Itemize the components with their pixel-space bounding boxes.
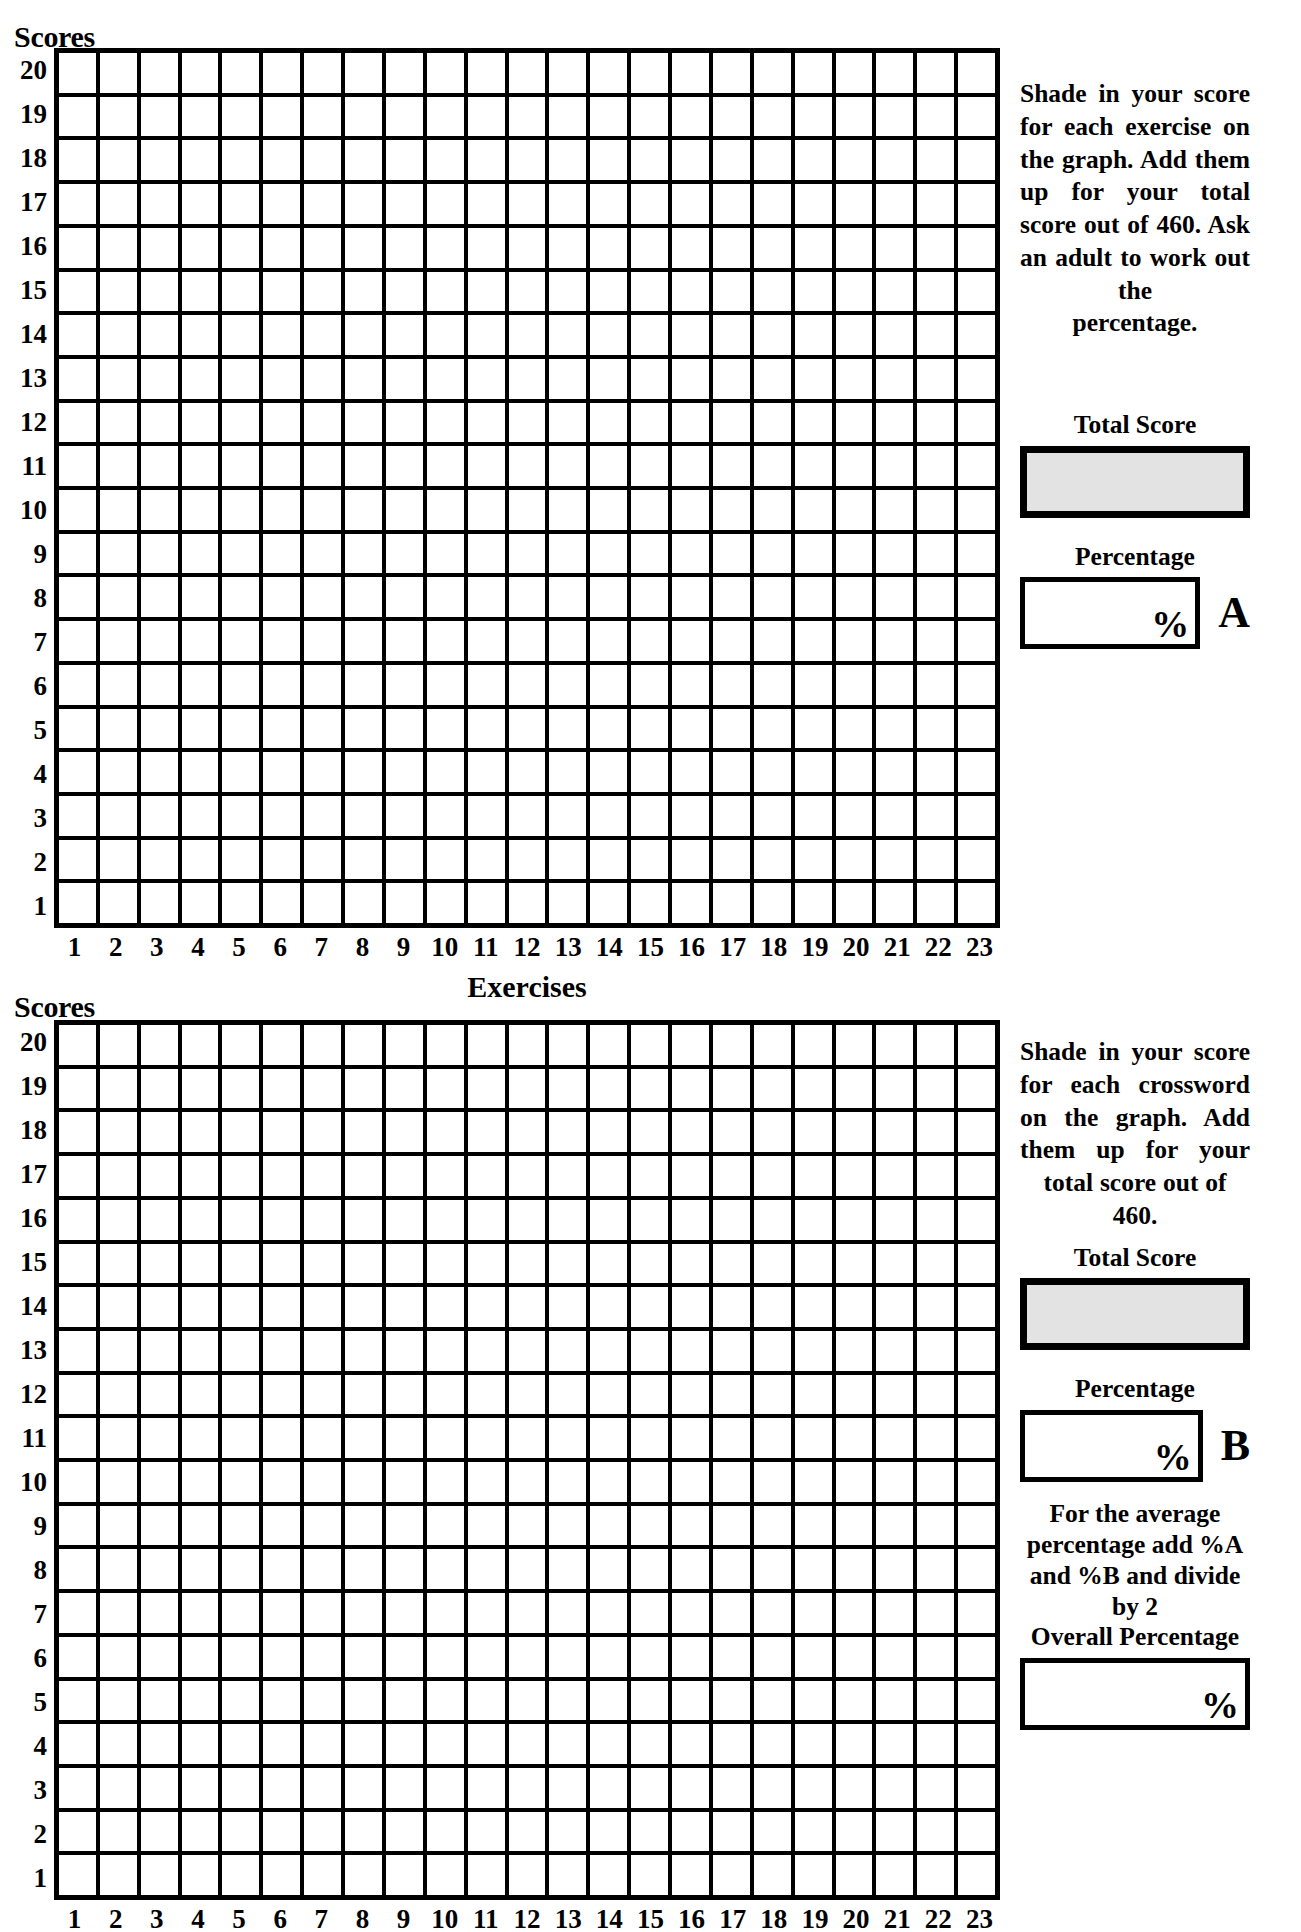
grid-cell[interactable]: [141, 534, 178, 574]
grid-cell[interactable]: [631, 1462, 668, 1502]
grid-cell[interactable]: [754, 709, 791, 749]
grid-cell[interactable]: [713, 53, 750, 93]
grid-cell[interactable]: [222, 315, 259, 355]
grid-cell[interactable]: [590, 1025, 627, 1065]
grid-cell[interactable]: [713, 359, 750, 399]
grid-cell[interactable]: [672, 1025, 709, 1065]
grid-cell[interactable]: [345, 1855, 382, 1895]
grid-cell[interactable]: [876, 140, 913, 180]
grid-cell[interactable]: [263, 1549, 300, 1589]
grid-cell[interactable]: [468, 272, 505, 312]
grid-cell[interactable]: [59, 1200, 96, 1240]
grid-cell[interactable]: [509, 796, 546, 836]
grid-cell[interactable]: [427, 1812, 464, 1852]
grid-cell[interactable]: [141, 1593, 178, 1633]
grid-cell[interactable]: [427, 1025, 464, 1065]
grid-cell[interactable]: [386, 534, 423, 574]
grid-cell[interactable]: [100, 1200, 137, 1240]
grid-cell[interactable]: [795, 490, 832, 530]
grid-cell[interactable]: [754, 1855, 791, 1895]
grid-cell[interactable]: [100, 53, 137, 93]
grid-cell[interactable]: [631, 577, 668, 617]
grid-cell[interactable]: [672, 1156, 709, 1196]
grid-cell[interactable]: [304, 315, 341, 355]
grid-cell[interactable]: [304, 1637, 341, 1677]
grid-cell[interactable]: [590, 1768, 627, 1808]
grid-cell[interactable]: [182, 272, 219, 312]
grid-cell[interactable]: [468, 1375, 505, 1415]
grid-cell[interactable]: [345, 1287, 382, 1327]
grid-cell[interactable]: [672, 1855, 709, 1895]
grid-cell[interactable]: [59, 665, 96, 705]
grid-cell[interactable]: [141, 1724, 178, 1764]
grid-cell[interactable]: [754, 1112, 791, 1152]
grid-cell[interactable]: [59, 1112, 96, 1152]
grid-cell[interactable]: [754, 577, 791, 617]
grid-cell[interactable]: [304, 53, 341, 93]
grid-cell[interactable]: [958, 1287, 995, 1327]
grid-cell[interactable]: [182, 1418, 219, 1458]
grid-cell[interactable]: [345, 1244, 382, 1284]
grid-cell[interactable]: [182, 359, 219, 399]
grid-cell[interactable]: [631, 621, 668, 661]
grid-cell[interactable]: [100, 228, 137, 268]
grid-cell[interactable]: [549, 272, 586, 312]
grid-cell[interactable]: [590, 97, 627, 137]
grid-cell[interactable]: [549, 1768, 586, 1808]
grid-cell[interactable]: [509, 272, 546, 312]
grid-cell[interactable]: [386, 1375, 423, 1415]
grid-cell[interactable]: [754, 1418, 791, 1458]
grid-cell[interactable]: [59, 1069, 96, 1109]
grid-cell[interactable]: [222, 1681, 259, 1721]
grid-cell[interactable]: [590, 1331, 627, 1371]
grid-cell[interactable]: [754, 140, 791, 180]
grid-cell[interactable]: [386, 1724, 423, 1764]
grid-cell[interactable]: [590, 1506, 627, 1546]
grid-cell[interactable]: [59, 1812, 96, 1852]
grid-cell[interactable]: [876, 1724, 913, 1764]
grid-cell[interactable]: [836, 53, 873, 93]
grid-cell[interactable]: [836, 709, 873, 749]
grid-cell[interactable]: [427, 490, 464, 530]
grid-cell[interactable]: [59, 621, 96, 661]
grid-cell[interactable]: [304, 1768, 341, 1808]
grid-cell[interactable]: [100, 1593, 137, 1633]
grid-cell[interactable]: [590, 1375, 627, 1415]
grid-cell[interactable]: [876, 1375, 913, 1415]
grid-cell[interactable]: [917, 665, 954, 705]
grid-cell[interactable]: [141, 1156, 178, 1196]
grid-cell[interactable]: [468, 883, 505, 923]
grid-cell[interactable]: [836, 490, 873, 530]
grid-cell[interactable]: [141, 1549, 178, 1589]
grid-cell[interactable]: [222, 1637, 259, 1677]
grid-cell[interactable]: [427, 1244, 464, 1284]
grid-cell[interactable]: [222, 359, 259, 399]
grid-cell[interactable]: [836, 1418, 873, 1458]
grid-cell[interactable]: [876, 446, 913, 486]
grid-cell[interactable]: [590, 315, 627, 355]
grid-cell[interactable]: [917, 752, 954, 792]
grid-cell[interactable]: [345, 883, 382, 923]
grid-cell[interactable]: [713, 184, 750, 224]
grid-cell[interactable]: [345, 1768, 382, 1808]
grid-cell[interactable]: [917, 1812, 954, 1852]
grid-cell[interactable]: [263, 1724, 300, 1764]
grid-cell[interactable]: [468, 1593, 505, 1633]
grid-cell[interactable]: [958, 1637, 995, 1677]
grid-cell[interactable]: [468, 665, 505, 705]
grid-cell[interactable]: [182, 1768, 219, 1808]
grid-cell[interactable]: [345, 1637, 382, 1677]
grid-cell[interactable]: [509, 403, 546, 443]
grid-cell[interactable]: [222, 1549, 259, 1589]
grid-cell[interactable]: [631, 1418, 668, 1458]
grid-cell[interactable]: [427, 228, 464, 268]
grid-cell[interactable]: [386, 709, 423, 749]
grid-cell[interactable]: [141, 1855, 178, 1895]
grid-cell[interactable]: [59, 446, 96, 486]
grid-cell[interactable]: [631, 1112, 668, 1152]
grid-cell[interactable]: [59, 315, 96, 355]
grid-cell[interactable]: [754, 1549, 791, 1589]
grid-cell[interactable]: [222, 53, 259, 93]
grid-cell[interactable]: [182, 1506, 219, 1546]
grid-cell[interactable]: [713, 1200, 750, 1240]
